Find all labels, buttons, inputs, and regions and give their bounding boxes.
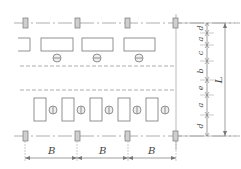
dimension-label-d-bottom: d [196,123,205,128]
dimension-label-l: L [213,76,224,84]
dimension-label-b: b [196,68,205,73]
dimension-label-a-top: a [196,36,205,41]
dimension-label-b-2: B [98,145,106,156]
dimension-label-e: e [196,85,205,90]
dimension-label-a-bottom: a [196,102,205,107]
layout-diagram: B B B d a c b e a d L [0,0,241,169]
dimension-label-c: c [196,50,205,55]
dimension-label-b-1: B [47,145,55,156]
dimension-label-d-top: d [196,25,205,30]
dimension-label-b-3: B [147,145,155,156]
